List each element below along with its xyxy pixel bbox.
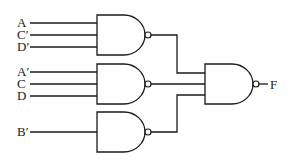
input-label-d-prime: D′ — [17, 39, 29, 54]
nand-gate-1 — [97, 15, 145, 55]
input-label-b-prime: B′ — [17, 124, 29, 139]
nand-gate-4 — [205, 64, 253, 104]
nand-gate-4-bubble — [253, 81, 259, 87]
input-label-d: D — [17, 88, 26, 103]
logic-circuit-diagram: A C′ D′ A′ C D B′ F — [0, 0, 294, 162]
wire-gate1-to-gate4 — [151, 35, 205, 73]
nand-gate-1-bubble — [145, 32, 151, 38]
output-label-f: F — [270, 77, 277, 92]
wire-gate3-to-gate4 — [151, 95, 205, 132]
nand-gate-3 — [97, 112, 145, 152]
nand-gate-2 — [97, 64, 145, 104]
nand-gate-2-bubble — [145, 81, 151, 87]
nand-gate-3-bubble — [145, 129, 151, 135]
